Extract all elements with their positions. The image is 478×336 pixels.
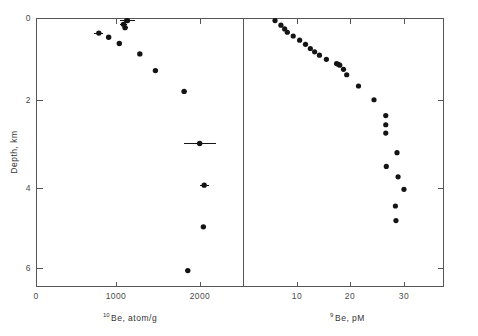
data-point — [201, 224, 206, 229]
data-point — [324, 57, 329, 62]
data-point — [371, 97, 376, 102]
data-point — [341, 67, 346, 72]
left-xtick-label-1000: 1000 — [106, 291, 127, 301]
data-point — [317, 53, 322, 58]
ytick-label-4: 4 — [26, 183, 31, 193]
left-panel-y-ticks — [37, 19, 43, 269]
data-point — [272, 18, 277, 23]
right-xtick-label-30: 30 — [399, 291, 409, 301]
right-x-axis-title: 9 Be, pM — [330, 312, 365, 323]
data-point — [393, 203, 398, 208]
data-point — [291, 33, 296, 38]
left-xtick-label-2000: 2000 — [190, 291, 211, 301]
right-xtick-label-10: 10 — [292, 291, 302, 301]
right-panel-data-series — [272, 18, 406, 223]
ytick-label-2: 2 — [26, 95, 31, 105]
data-point — [153, 68, 158, 73]
data-point — [337, 63, 342, 68]
data-point — [395, 174, 400, 179]
data-point — [383, 122, 388, 127]
ytick-label-0: 0 — [26, 13, 31, 23]
data-point — [201, 182, 206, 187]
data-point — [285, 30, 290, 35]
data-point — [312, 49, 317, 54]
scatter-plot-svg: 0 1000 2000 0 2 4 6 10 20 30 10 Be, atom… — [0, 0, 478, 336]
data-point — [125, 18, 130, 23]
data-point — [303, 42, 308, 47]
left-x-axis-title-superscript: 10 — [103, 312, 110, 318]
data-point — [278, 23, 283, 28]
ytick-label-6: 6 — [26, 263, 31, 273]
right-panel-x-ticks — [298, 19, 405, 287]
data-point — [393, 218, 398, 223]
data-point — [401, 187, 406, 192]
right-xtick-label-20: 20 — [345, 291, 355, 301]
left-panel-data-series — [94, 18, 215, 273]
left-panel-x-ticks — [37, 19, 201, 287]
data-point — [181, 89, 186, 94]
data-point — [122, 25, 127, 30]
data-point — [106, 35, 111, 40]
right-x-axis-title-main: Be, pM — [335, 313, 365, 323]
data-point — [383, 113, 388, 118]
right-x-axis-title-superscript: 9 — [330, 312, 334, 318]
data-point — [185, 268, 190, 273]
left-x-axis-title: 10 Be, atom/g — [103, 312, 157, 323]
data-point — [197, 141, 202, 146]
left-x-axis-title-main: Be, atom/g — [111, 313, 157, 323]
left-xtick-label-0: 0 — [33, 291, 38, 301]
plot-frame — [37, 19, 444, 287]
y-axis-title: Depth, km — [9, 130, 19, 173]
figure-container: 0 1000 2000 0 2 4 6 10 20 30 10 Be, atom… — [0, 0, 478, 336]
data-point — [394, 150, 399, 155]
data-point — [137, 51, 142, 56]
data-point — [344, 72, 349, 77]
data-point — [96, 30, 101, 35]
data-point — [356, 83, 361, 88]
data-point — [117, 41, 122, 46]
data-point — [384, 164, 389, 169]
data-point — [297, 38, 302, 43]
data-point — [383, 130, 388, 135]
right-panel-y-ticks — [438, 101, 444, 269]
data-point — [308, 46, 313, 51]
